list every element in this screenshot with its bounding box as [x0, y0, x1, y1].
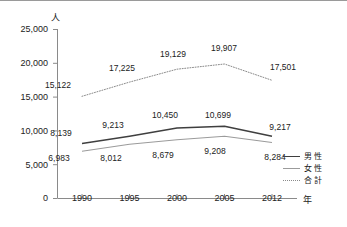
y-tick-label-25000: 25,000 [6, 24, 48, 34]
y-axis-unit-label: 人 [51, 11, 60, 24]
chart-legend: 男 性 女 性 合 計 [283, 150, 345, 186]
data-label-male-2000: 10,450 [143, 110, 187, 120]
legend-line-female-icon [283, 164, 300, 172]
data-label-female-2000: 8,679 [141, 150, 185, 160]
data-label-male-1990: 8,139 [39, 128, 83, 138]
y-axis-ticks [53, 30, 58, 199]
legend-item-female[interactable]: 女 性 [283, 162, 345, 173]
data-label-male-1995: 9,213 [91, 120, 135, 130]
data-label-total-1990: 15,122 [36, 80, 80, 90]
data-label-male-2012: 9,217 [258, 122, 302, 132]
x-axis-unit-label: 年 [303, 193, 312, 206]
data-label-total-2012: 17,501 [261, 62, 305, 72]
legend-label-total: 合 計 [304, 174, 322, 185]
x-tick-label-2000: 2000 [157, 193, 197, 203]
data-label-female-2005: 9,208 [193, 146, 237, 156]
legend-label-male: 男 性 [304, 150, 322, 161]
y-tick-label-20000: 20,000 [6, 58, 48, 68]
legend-label-female: 女 性 [304, 162, 322, 173]
y-tick-label-0: 0 [6, 193, 48, 203]
data-label-total-1995: 17,225 [100, 63, 144, 73]
legend-item-total[interactable]: 合 計 [283, 174, 345, 185]
data-label-female-1990: 6,983 [37, 153, 81, 163]
x-tick-label-2005: 2005 [205, 193, 245, 203]
legend-line-male-icon [283, 152, 300, 160]
x-tick-label-1995: 1995 [110, 193, 150, 203]
data-label-male-2005: 10,699 [196, 110, 240, 120]
chart-figure: 人 年 25,000 20,000 15,000 10,000 5,000 0 … [0, 0, 347, 227]
data-label-female-1995: 8,012 [89, 153, 133, 163]
x-tick-label-1990: 1990 [62, 193, 102, 203]
data-label-total-2005: 19,907 [202, 43, 246, 53]
x-tick-label-2012: 2012 [252, 193, 292, 203]
legend-item-male[interactable]: 男 性 [283, 150, 345, 161]
data-label-total-2000: 19,129 [151, 49, 195, 59]
legend-line-total-icon [283, 176, 300, 184]
y-tick-label-15000: 15,000 [6, 92, 48, 102]
